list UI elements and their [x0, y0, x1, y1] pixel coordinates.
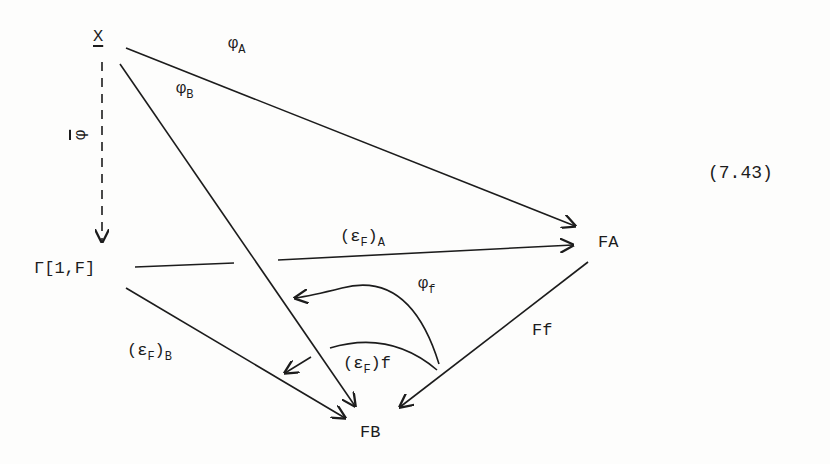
epsilon-symbol: ε	[350, 227, 360, 246]
object-fa: FA	[598, 234, 618, 251]
object-x: X	[93, 28, 103, 45]
subscript-b: B	[165, 350, 172, 364]
arrow-phi-a	[126, 48, 575, 226]
open-paren: (	[340, 227, 350, 246]
subscript-a: A	[238, 43, 245, 57]
arrow-eps-a	[278, 245, 573, 260]
phi-symbol: φ	[176, 79, 186, 98]
label-phi-a: φA	[228, 35, 245, 56]
open-paren: (	[343, 354, 353, 373]
label-phi-f: φf	[418, 275, 435, 296]
subscript-f: F	[147, 350, 154, 364]
subscript-f: F	[363, 363, 370, 377]
label-phi-bar: φ	[72, 130, 89, 140]
subscript-b: B	[186, 88, 193, 102]
label-eps-a: (εF)A	[340, 228, 385, 249]
commutative-diagram: X Γ[1,F] FA FB (7.43) φ φA φB (εF)A φf F…	[0, 0, 830, 464]
equation-number: (7.43)	[708, 164, 773, 182]
arrow-phi-f-2cell	[295, 285, 439, 364]
subscript-a: A	[378, 236, 385, 250]
suffix-f: f	[381, 354, 391, 373]
epsilon-symbol: ε	[137, 341, 147, 360]
arrow-eps-f-head	[285, 357, 311, 373]
arrow-eps-a-part1	[135, 263, 234, 267]
diagram-arrows	[0, 0, 830, 464]
phi-symbol: φ	[228, 34, 238, 53]
object-gamma-1-f: Γ[1,F]	[34, 260, 95, 277]
phi-symbol: φ	[418, 274, 428, 293]
phi-bar-symbol: φ	[71, 130, 90, 140]
subscript-f: f	[428, 283, 435, 297]
label-eps-f: (εF)f	[343, 355, 391, 376]
close-paren: )	[155, 341, 165, 360]
label-phi-b: φB	[176, 80, 193, 101]
label-ff: Ff	[532, 322, 552, 339]
open-paren: (	[127, 341, 137, 360]
epsilon-symbol: ε	[353, 354, 363, 373]
close-paren: )	[368, 227, 378, 246]
close-paren: )	[371, 354, 381, 373]
subscript-f: F	[360, 236, 367, 250]
label-eps-b: (εF)B	[127, 342, 172, 363]
object-fb: FB	[360, 424, 380, 441]
